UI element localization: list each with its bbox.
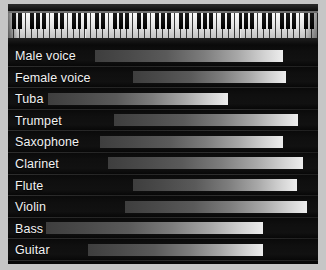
black-key[interactable]: [286, 13, 290, 29]
black-key[interactable]: [12, 13, 16, 29]
row-label: Bass: [15, 220, 43, 238]
row-label: Saxophone: [15, 133, 79, 151]
black-key[interactable]: [60, 13, 64, 29]
black-key[interactable]: [304, 13, 308, 29]
row-label: Male voice: [15, 47, 76, 65]
black-key[interactable]: [72, 13, 76, 29]
black-key[interactable]: [227, 13, 231, 29]
black-key[interactable]: [280, 13, 284, 29]
black-key[interactable]: [262, 13, 266, 29]
black-key[interactable]: [18, 13, 22, 29]
range-bar[interactable]: [133, 179, 297, 191]
black-key[interactable]: [84, 13, 88, 29]
black-key[interactable]: [292, 13, 296, 29]
row-label: Guitar: [15, 241, 50, 259]
black-key[interactable]: [155, 13, 159, 29]
range-bar[interactable]: [133, 71, 286, 83]
row-separator: [8, 260, 318, 261]
black-key[interactable]: [101, 13, 105, 29]
black-key[interactable]: [125, 13, 129, 29]
range-rows: Male voiceFemale voiceTubaTrumpetSaxopho…: [8, 45, 318, 264]
keyboard-bottom-bezel: [8, 38, 318, 45]
range-bar[interactable]: [114, 114, 298, 126]
black-key[interactable]: [137, 13, 141, 29]
row-label: Violin: [15, 198, 46, 216]
range-bar[interactable]: [108, 157, 303, 169]
chart-panel: Male voiceFemale voiceTubaTrumpetSaxopho…: [8, 4, 318, 264]
black-key[interactable]: [95, 13, 99, 29]
black-key[interactable]: [310, 13, 314, 29]
range-row[interactable]: Trumpet: [8, 110, 318, 132]
row-label: Flute: [15, 177, 43, 195]
pitch-range-chart: Male voiceFemale voiceTubaTrumpetSaxopho…: [0, 0, 326, 270]
keyboard-top-bezel: [8, 4, 318, 11]
range-row[interactable]: Guitar: [8, 239, 318, 261]
row-label: Clarinet: [15, 155, 59, 173]
row-label: Female voice: [15, 69, 91, 87]
black-key[interactable]: [179, 13, 183, 29]
black-key[interactable]: [244, 13, 248, 29]
black-key[interactable]: [221, 13, 225, 29]
black-key[interactable]: [54, 13, 58, 29]
black-key[interactable]: [78, 13, 82, 29]
black-key[interactable]: [250, 13, 254, 29]
range-row[interactable]: Violin: [8, 196, 318, 218]
black-key[interactable]: [113, 13, 117, 29]
range-row[interactable]: Female voice: [8, 67, 318, 89]
black-key[interactable]: [42, 13, 46, 29]
range-bar[interactable]: [95, 50, 283, 62]
black-key[interactable]: [197, 13, 201, 29]
black-key[interactable]: [203, 13, 207, 29]
range-row[interactable]: Clarinet: [8, 153, 318, 175]
black-key[interactable]: [119, 13, 123, 29]
range-row[interactable]: Male voice: [8, 45, 318, 67]
black-key[interactable]: [30, 13, 34, 29]
range-bar[interactable]: [48, 93, 228, 105]
row-label: Trumpet: [15, 112, 62, 130]
range-bar[interactable]: [100, 136, 283, 148]
range-row[interactable]: Flute: [8, 175, 318, 197]
keyboard-keys[interactable]: [8, 13, 318, 38]
range-row[interactable]: Saxophone: [8, 131, 318, 153]
black-key[interactable]: [167, 13, 171, 29]
black-key[interactable]: [36, 13, 40, 29]
range-bar[interactable]: [46, 222, 263, 234]
black-key[interactable]: [161, 13, 165, 29]
range-bar[interactable]: [88, 244, 263, 256]
black-key[interactable]: [185, 13, 189, 29]
range-bar[interactable]: [125, 201, 307, 213]
black-key[interactable]: [239, 13, 243, 29]
black-key[interactable]: [209, 13, 213, 29]
piano-keyboard[interactable]: [8, 4, 318, 45]
black-key[interactable]: [268, 13, 272, 29]
range-row[interactable]: Tuba: [8, 88, 318, 110]
range-row[interactable]: Bass: [8, 218, 318, 240]
row-label: Tuba: [15, 90, 43, 108]
black-key[interactable]: [143, 13, 147, 29]
